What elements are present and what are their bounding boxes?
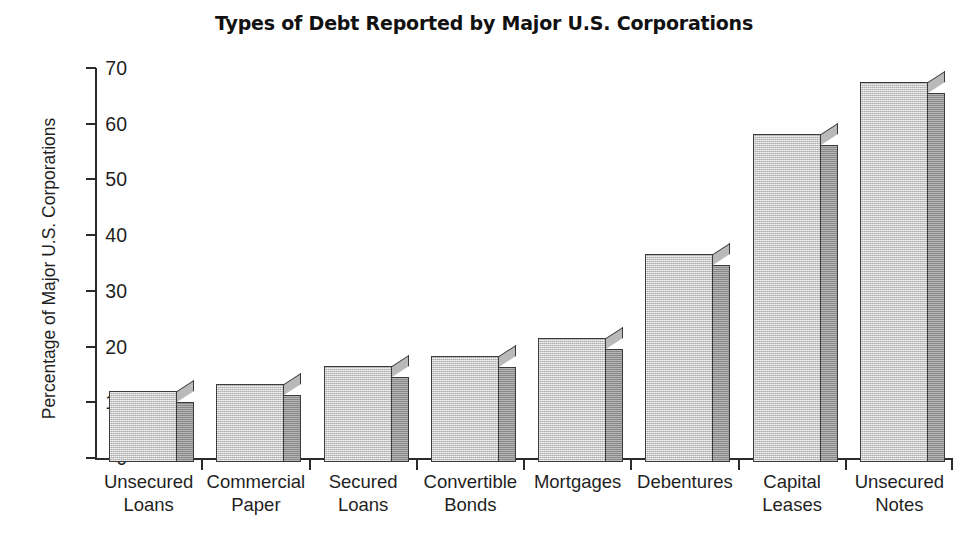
y-axis-tick-label: 60: [81, 124, 127, 125]
bar-top-face: [606, 327, 623, 349]
bar-front-face: [216, 384, 284, 462]
category-label-3: SecuredLoans: [310, 470, 417, 517]
bar-6: [645, 254, 713, 462]
bar-side-face: [713, 265, 730, 462]
bar-front-face: [753, 134, 821, 462]
y-axis-tick-label: 40: [81, 235, 127, 236]
category-label-8: UnsecuredNotes: [846, 470, 953, 517]
bar-side-face: [821, 145, 838, 462]
bar-2: [216, 384, 284, 462]
bar-top-face: [392, 355, 409, 377]
y-axis-tick-label: 70: [81, 68, 127, 69]
bar-top-face: [713, 243, 730, 265]
y-axis-tick-label: 50: [81, 179, 127, 180]
category-label-4: ConvertibleBonds: [417, 470, 524, 517]
bar-side-face: [606, 349, 623, 462]
x-axis-tick: [201, 460, 203, 470]
bar-front-face: [645, 254, 713, 462]
y-axis-tick-label: 30: [81, 291, 127, 292]
bar-chart: Types of Debt Reported by Major U.S. Cor…: [0, 0, 968, 541]
bar-5: [538, 338, 606, 462]
bar-top-face: [284, 373, 301, 395]
category-label-5: Mortgages: [524, 470, 631, 493]
x-axis-tick: [523, 460, 525, 470]
chart-title: Types of Debt Reported by Major U.S. Cor…: [0, 12, 968, 34]
bar-front-face: [109, 391, 177, 462]
bar-side-face: [928, 93, 945, 462]
y-axis-tick-label: 20: [81, 347, 127, 348]
x-axis-tick: [630, 460, 632, 470]
bar-top-face: [177, 380, 194, 402]
bar-side-face: [177, 402, 194, 462]
bar-front-face: [431, 356, 499, 462]
bar-side-face: [284, 395, 301, 462]
x-axis-tick: [951, 460, 953, 470]
plot-area: 010203040506070: [95, 60, 955, 464]
bar-top-face: [928, 71, 945, 93]
bar-front-face: [324, 366, 392, 462]
x-axis-tick: [309, 460, 311, 470]
bar-8: [860, 82, 928, 462]
bar-top-face: [821, 123, 838, 145]
bar-front-face: [860, 82, 928, 462]
category-label-2: CommercialPaper: [202, 470, 309, 517]
x-axis-tick: [845, 460, 847, 470]
bar-3: [324, 366, 392, 462]
x-axis-tick: [416, 460, 418, 470]
category-label-1: UnsecuredLoans: [95, 470, 202, 517]
bar-side-face: [392, 377, 409, 462]
bar-top-face: [499, 345, 516, 367]
bar-front-face: [538, 338, 606, 462]
bar-side-face: [499, 367, 516, 462]
bar-1: [109, 391, 177, 462]
bar-4: [431, 356, 499, 462]
x-axis-tick: [738, 460, 740, 470]
y-axis-title: Percentage of Major U.S. Corporations: [39, 59, 60, 479]
category-label-6: Debentures: [631, 470, 738, 493]
category-label-7: CapitalLeases: [739, 470, 846, 517]
x-axis-category-labels: UnsecuredLoansCommercialPaperSecuredLoan…: [95, 470, 955, 532]
bar-7: [753, 134, 821, 462]
